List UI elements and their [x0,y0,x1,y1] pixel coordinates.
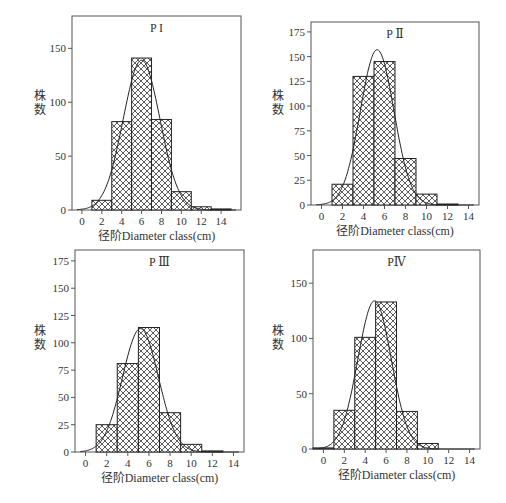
histogram-bar [395,159,416,205]
y-axis-title: 数 [34,102,46,117]
y-tick-label: 150 [50,42,67,54]
panel-title: P Ⅱ [386,27,403,41]
y-axis-title: 数 [34,337,46,352]
x-tick-label: 2 [104,457,110,469]
y-tick-label: 50 [58,391,70,403]
x-tick-label: 8 [404,454,410,466]
x-tick-label: 10 [176,215,188,227]
histogram-bar [171,192,191,210]
histogram-bar [355,337,376,449]
y-tick-label: 125 [289,75,306,87]
panel-title: P Ⅲ [149,255,170,269]
x-tick-label: 12 [442,210,453,222]
x-tick-label: 4 [361,210,367,222]
histogram-bar [117,364,138,452]
x-tick-label: 2 [342,454,348,466]
x-tick-label: 12 [196,215,207,227]
y-tick-label: 25 [58,419,70,431]
figure-caption [140,494,390,503]
x-tick-label: 10 [422,454,434,466]
histogram-bar [132,58,152,210]
x-tick-label: 4 [119,215,125,227]
y-axis-title: 数 [272,337,284,352]
y-axis-title: 株 [272,88,284,103]
x-tick-label: 14 [228,457,240,469]
y-tick-label: 100 [291,332,308,344]
x-tick-label: 6 [146,457,152,469]
x-tick-label: 14 [463,210,475,222]
y-axis-title: 数 [272,102,284,117]
x-tick-label: 6 [382,210,388,222]
x-tick-label: 14 [216,215,228,227]
x-tick-label: 8 [159,215,165,227]
histogram-panels: P I05010015002468101214径阶Diameter class(… [0,0,506,503]
histogram-bar [152,119,172,210]
x-tick-label: 2 [99,215,105,227]
x-tick-label: 4 [125,457,131,469]
y-tick-label: 150 [289,51,306,63]
x-tick-label: 10 [421,210,433,222]
x-tick-label: 0 [83,457,89,469]
x-tick-label: 0 [321,454,327,466]
histogram-bar [96,425,117,452]
y-tick-label: 0 [64,446,70,458]
x-tick-label: 2 [340,210,346,222]
chart-panel-p4: PⅣ05010015002468101214径阶Diameter class(c… [272,250,480,482]
histogram-bar [112,122,132,210]
y-tick-label: 50 [294,150,306,162]
y-tick-label: 150 [291,277,308,289]
x-axis-title: 径阶Diameter class(cm) [336,224,454,238]
histogram-bar [138,328,159,452]
x-tick-label: 8 [167,457,173,469]
y-tick-label: 175 [289,26,306,38]
y-axis-title: 株 [34,88,46,103]
y-tick-label: 50 [55,150,67,162]
x-tick-label: 6 [383,454,389,466]
x-axis-title: 径阶Diameter class(cm) [98,229,216,243]
x-tick-label: 12 [443,454,454,466]
x-tick-label: 6 [139,215,145,227]
y-tick-label: 100 [50,96,67,108]
y-tick-label: 75 [294,125,306,137]
x-tick-label: 8 [403,210,409,222]
y-tick-label: 0 [300,199,306,211]
y-tick-label: 100 [289,100,306,112]
y-axis-title: 株 [34,323,46,338]
x-tick-label: 0 [319,210,325,222]
x-tick-label: 12 [207,457,218,469]
x-axis-title: 径阶Diameter class(cm) [101,471,219,485]
panel-title: P I [150,21,163,35]
y-tick-label: 175 [53,255,70,267]
chart-panel-p1: P I05010015002468101214径阶Diameter class(… [34,16,241,243]
histogram-bar [334,410,355,449]
histogram-bar [92,200,112,210]
x-tick-label: 0 [79,215,85,227]
x-axis-title: 径阶Diameter class(cm) [338,468,456,482]
y-tick-label: 0 [61,204,67,216]
y-tick-label: 25 [294,174,306,186]
y-tick-label: 50 [296,388,308,400]
y-tick-label: 75 [58,364,70,376]
histogram-bar [374,62,395,205]
y-axis-title: 株 [272,323,284,338]
panel-title: PⅣ [387,255,407,269]
x-tick-label: 4 [362,454,368,466]
chart-panel-p3: P Ⅲ025507510012515017502468101214径阶Diame… [34,250,244,485]
histogram-bar [397,411,418,449]
x-tick-label: 10 [186,457,198,469]
y-tick-label: 125 [53,310,70,322]
y-tick-label: 0 [302,443,308,455]
chart-panel-p2: P Ⅱ025507510012515017502468101214径阶Diame… [272,22,479,238]
y-tick-label: 100 [53,337,70,349]
histogram-bar [160,413,181,452]
y-tick-label: 150 [53,282,70,294]
x-tick-label: 14 [464,454,476,466]
histogram-bar [376,302,397,449]
